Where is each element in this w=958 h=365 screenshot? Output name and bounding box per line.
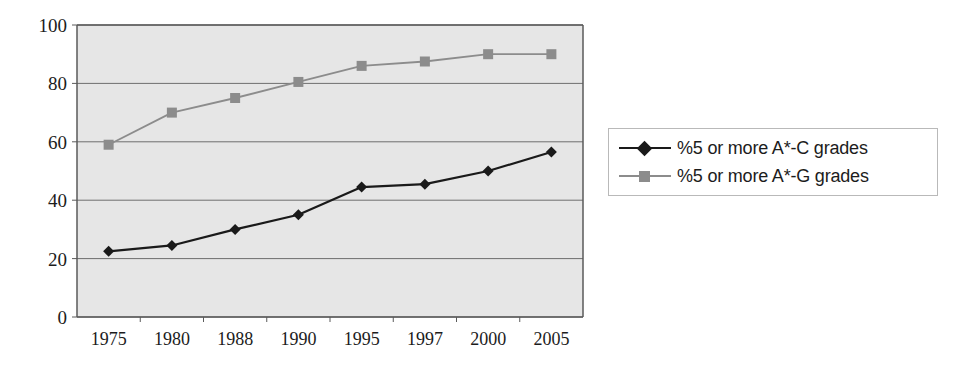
legend-swatch-series-1 <box>619 168 671 184</box>
data-point-marker <box>167 108 177 118</box>
data-point-marker <box>420 57 430 67</box>
x-axis-label: 1997 <box>407 329 443 350</box>
data-point-marker <box>546 49 556 59</box>
line-chart: 020406080100 197519801988199019951997200… <box>0 0 958 365</box>
y-axis-label: 100 <box>21 16 67 35</box>
y-axis-label: 20 <box>21 249 67 268</box>
data-point-marker <box>104 140 114 150</box>
data-point-marker <box>483 49 493 59</box>
y-axis-label: 0 <box>21 308 67 327</box>
x-axis-label: 1975 <box>91 329 127 350</box>
x-axis-label: 1980 <box>154 329 190 350</box>
square-marker-icon <box>639 171 650 182</box>
plot-background <box>77 25 583 317</box>
legend-label-series-1: %5 or more A*-G grades <box>677 166 869 187</box>
data-point-marker <box>293 77 303 87</box>
data-point-marker <box>357 61 367 71</box>
diamond-marker-icon <box>637 141 653 157</box>
data-point-marker <box>230 93 240 103</box>
chart-legend: %5 or more A*-C grades %5 or more A*-G g… <box>608 128 938 196</box>
legend-item-series-1: %5 or more A*-G grades <box>619 163 869 189</box>
legend-swatch-series-0 <box>619 140 671 156</box>
x-axis-label: 1995 <box>344 329 380 350</box>
x-axis-label: 1988 <box>217 329 253 350</box>
y-axis-label: 40 <box>21 191 67 210</box>
x-axis-label: 2000 <box>470 329 506 350</box>
x-axis-label: 2005 <box>533 329 569 350</box>
y-axis-label: 80 <box>21 74 67 93</box>
x-axis-label: 1990 <box>280 329 316 350</box>
y-axis-label: 60 <box>21 132 67 151</box>
legend-item-series-0: %5 or more A*-C grades <box>619 135 868 161</box>
legend-label-series-0: %5 or more A*-C grades <box>677 138 868 159</box>
